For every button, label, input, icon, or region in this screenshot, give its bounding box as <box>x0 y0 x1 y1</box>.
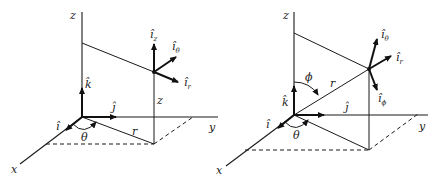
iphi-label: îϕ <box>378 92 387 107</box>
spherical-diagram: z y x r ϕ θ k̂ ĵ î îθ îr îϕ <box>216 9 428 177</box>
i-label: î <box>266 118 271 131</box>
z-axis-label: z <box>69 9 76 22</box>
z-label: z <box>156 94 163 107</box>
theta-label: θ <box>293 129 300 142</box>
x-axis-label: x <box>216 164 223 177</box>
itheta-label: îθ <box>172 40 181 55</box>
ir-label: îr <box>396 51 404 66</box>
r-label: r <box>132 125 138 138</box>
y-axis-label: y <box>208 121 216 134</box>
j-label: ĵ <box>343 101 349 114</box>
iphi-unit-vector <box>369 69 377 90</box>
x-axis-label: x <box>11 163 18 176</box>
coordinate-systems-figure: z y x z r θ k̂ ĵ î îz îθ îr z y <box>0 0 438 185</box>
height-line <box>294 33 369 69</box>
projected-radius-line <box>294 115 369 150</box>
iz-label: îz <box>150 28 158 43</box>
j-label: ĵ <box>110 101 116 114</box>
theta-arc <box>73 122 96 130</box>
radius-line <box>82 117 154 144</box>
phi-label: ϕ <box>305 71 313 84</box>
theta-label: θ <box>81 131 88 144</box>
dashed-y-projection <box>154 117 193 144</box>
ir-label: îr <box>184 76 192 91</box>
i-unit-vector <box>66 117 82 130</box>
cylindrical-diagram: z y x z r θ k̂ ĵ î îz îθ îr <box>11 9 218 176</box>
i-label: î <box>56 120 61 133</box>
height-line <box>82 43 154 72</box>
i-unit-vector <box>278 115 294 128</box>
dashed-y-projection <box>369 114 418 150</box>
z-axis-label: z <box>282 9 289 22</box>
theta-arc <box>285 120 308 128</box>
k-label: k̂ <box>282 95 289 109</box>
ir-unit-vector <box>154 72 178 82</box>
itheta-label: îθ <box>381 28 390 43</box>
itheta-unit-vector <box>154 57 176 72</box>
k-label: k̂ <box>85 77 92 91</box>
y-axis-label: y <box>418 120 426 133</box>
r-label: r <box>330 77 336 90</box>
